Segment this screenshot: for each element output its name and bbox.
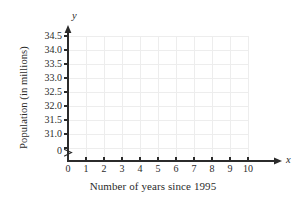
y-tick-label: 33.5 bbox=[28, 58, 62, 69]
x-tick-label: 10 bbox=[236, 163, 260, 174]
y-tick-label: 31.0 bbox=[28, 128, 62, 139]
y-origin-label: 0 bbox=[28, 145, 62, 156]
x-tick-marks bbox=[86, 157, 248, 161]
y-axis-arrow-icon bbox=[65, 25, 72, 33]
y-tick-label: 34.5 bbox=[28, 30, 62, 41]
x-axis-letter: x bbox=[286, 154, 291, 165]
y-tick-label: 33.0 bbox=[28, 72, 62, 83]
y-tick-marks bbox=[64, 36, 68, 148]
y-axis-letter: y bbox=[72, 10, 77, 21]
y-tick-label: 32.5 bbox=[28, 86, 62, 97]
y-tick-label: 32.0 bbox=[28, 100, 62, 111]
grid-lines bbox=[68, 36, 248, 160]
y-tick-label: 34.0 bbox=[28, 44, 62, 55]
x-axis-arrow-icon bbox=[274, 158, 282, 165]
y-tick-label: 31.5 bbox=[28, 114, 62, 125]
x-axis-title: Number of years since 1995 bbox=[58, 180, 248, 192]
chart-container: y x 34.5 34.0 33.5 33.0 32.5 32.0 31.5 3… bbox=[0, 0, 301, 203]
y-axis-title: Population (in millions) bbox=[18, 23, 29, 173]
